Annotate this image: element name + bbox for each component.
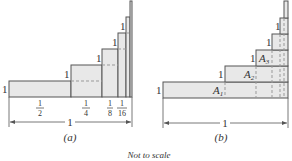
width-label: 1 xyxy=(67,116,73,128)
arrowhead-left-icon xyxy=(164,121,169,125)
svg-text:1: 1 xyxy=(108,99,112,108)
svg-text:1: 1 xyxy=(120,99,124,108)
svg-text:1: 1 xyxy=(38,99,42,108)
height-label: 1 xyxy=(120,20,126,32)
height-label: 1 xyxy=(64,68,70,80)
fraction-quarter: 1 4 xyxy=(82,99,90,118)
rect-eighth xyxy=(102,49,118,97)
svg-text:8: 8 xyxy=(108,109,112,118)
panel-label-b: (b) xyxy=(215,131,228,144)
height-label: 1 xyxy=(112,36,118,48)
arrowhead-left-icon xyxy=(10,120,15,124)
fraction-sixteenth: 1 16 xyxy=(117,99,127,118)
svg-text:2: 2 xyxy=(38,109,42,118)
svg-text:16: 16 xyxy=(118,109,126,118)
height-label: 1 xyxy=(218,68,224,80)
rect-64th xyxy=(130,1,132,97)
fraction-half: 1 2 xyxy=(36,99,44,118)
rect-half xyxy=(9,81,71,97)
arrowhead-right-icon xyxy=(126,120,131,124)
panel-b: 1 1 1 1 1 A1 A2 A3 1 (b) xyxy=(156,1,288,144)
geometric-series-diagram: 1 1 1 1 1 1 2 1 4 1 8 1 16 xyxy=(0,0,292,161)
width-label: 1 xyxy=(222,117,228,129)
height-label: 1 xyxy=(96,52,102,64)
rect-32nd xyxy=(126,17,130,97)
height-label: 1 xyxy=(156,84,162,96)
strip-A6 xyxy=(284,1,288,18)
height-label: 1 xyxy=(250,52,256,64)
fraction-eighth: 1 8 xyxy=(107,99,113,118)
svg-text:1: 1 xyxy=(84,99,88,108)
height-label: 1 xyxy=(275,20,281,32)
panel-label-a: (a) xyxy=(64,131,77,144)
rect-sixteenth xyxy=(118,33,126,97)
scale-note: Not to scale xyxy=(127,150,171,160)
svg-text:4: 4 xyxy=(84,109,88,118)
arrowhead-right-icon xyxy=(282,121,287,125)
height-label: 1 xyxy=(2,83,8,95)
panel-a: 1 1 1 1 1 1 2 1 4 1 8 1 16 xyxy=(2,1,132,144)
height-label: 1 xyxy=(266,36,272,48)
